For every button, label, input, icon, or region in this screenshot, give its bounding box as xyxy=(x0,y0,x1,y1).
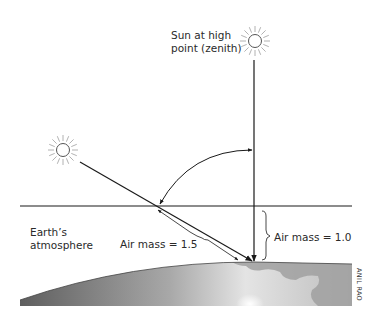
air-mass-vertical-brace xyxy=(262,211,270,260)
angle-arc-arrow xyxy=(160,150,252,204)
zenith-sun-label-line1: Sun at high xyxy=(171,29,242,42)
air-mass-slant-bracket xyxy=(158,210,238,260)
air-mass-vertical-label: Air mass = 1.0 xyxy=(274,231,352,244)
atmosphere-label-line1: Earth’s xyxy=(30,226,93,239)
atmosphere-label-line2: atmosphere xyxy=(30,239,93,252)
sun-icon xyxy=(48,135,78,165)
atmosphere-label: Earth’s atmosphere xyxy=(30,226,93,252)
image-credit: ANIL RAO xyxy=(355,268,363,301)
air-mass-slant-label: Air mass = 1.5 xyxy=(120,238,198,251)
zenith-sun-label-line2: point (zenith) xyxy=(171,42,242,55)
earth-surface xyxy=(20,262,352,314)
zenith-sun-label: Sun at high point (zenith) xyxy=(171,29,242,55)
sun-icon xyxy=(240,26,270,56)
